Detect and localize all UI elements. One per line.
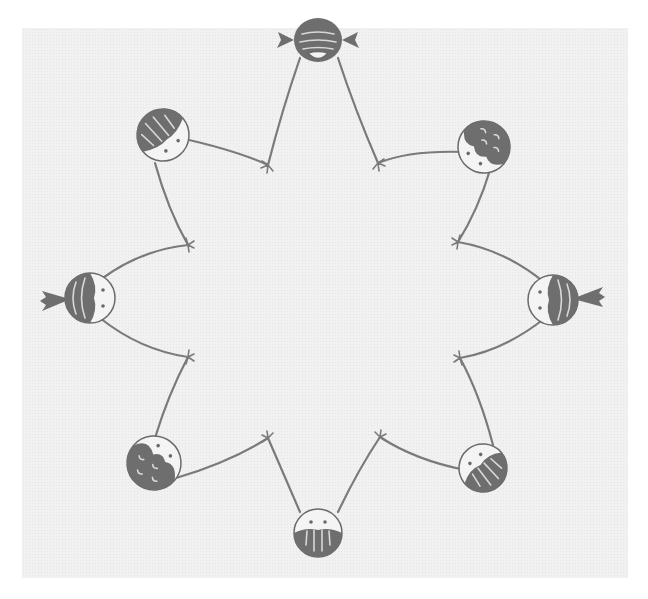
arm [176,438,268,478]
ponytail [40,291,66,311]
arm [155,357,188,438]
child-left [40,273,115,323]
arm [100,245,188,280]
hand [186,350,194,364]
hand [452,235,460,249]
child-right [528,275,605,325]
pigtail-left [277,32,294,48]
head-hair [294,529,342,557]
arm [380,437,465,470]
child-bottom-left [116,425,192,501]
hand [375,430,386,441]
children-circle-illustration [0,0,648,599]
child-top-left [126,98,199,171]
pigtail-right [342,32,359,48]
ponytail [577,287,605,307]
hand [454,351,462,365]
hand [262,431,273,442]
arm [268,438,300,512]
hands [186,159,462,442]
head-hair [548,275,578,325]
hand [186,238,194,252]
arm [460,318,545,358]
arm [100,318,188,357]
arm [338,437,380,512]
child-top [277,18,359,62]
arm [155,163,188,245]
arm [180,138,268,165]
arm [458,242,545,283]
arm [268,58,300,165]
arm [460,358,493,445]
child-top-right [447,110,520,183]
arm [458,170,490,242]
child-bottom-right [449,434,517,502]
arm [378,152,465,163]
child-bottom [294,509,342,557]
head-hair [65,273,95,323]
arm [338,58,378,163]
